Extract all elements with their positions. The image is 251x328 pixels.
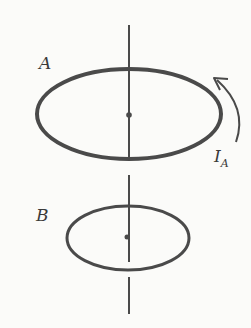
current-label-subscript: A — [221, 157, 229, 170]
current-label-main: I — [214, 146, 221, 166]
loop-b-label: B — [36, 207, 49, 224]
loop-b-center-dot — [125, 235, 130, 240]
loop-a-label: A — [39, 55, 51, 72]
current-label: IA — [214, 148, 229, 165]
loop-a-center-dot — [126, 112, 132, 118]
diagram-canvas: A B IA — [0, 0, 251, 328]
